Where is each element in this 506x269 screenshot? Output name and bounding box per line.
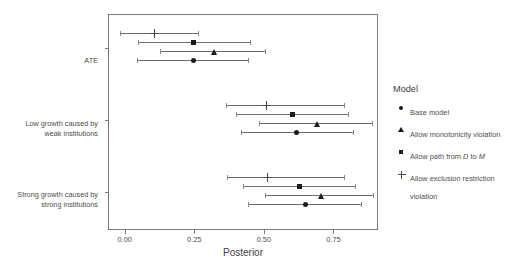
interval-row [109,38,377,47]
legend-item-plus[interactable]: Allow exclusion restriction violation [392,167,504,203]
interval-row [109,128,377,137]
x-tick-mark [264,230,265,234]
interval-row [109,56,377,65]
interval-endcap [243,184,244,189]
legend-item-triangle[interactable]: Allow monotonicity violation [392,123,504,141]
interval-row [109,110,377,119]
interval-endcap [372,121,373,126]
interval-endcap [259,121,260,126]
interval-endcap [355,184,356,189]
credible-interval-bar [226,105,344,106]
data-point-square [297,184,302,189]
interval-row [109,182,377,191]
interval-row [109,29,377,38]
legend-item-label: Allow exclusion restriction violation [410,174,495,201]
interval-row [109,47,377,56]
interval-endcap [344,175,345,180]
data-point-triangle [314,121,320,127]
data-point-triangle [318,193,324,199]
x-tick-label: 0.25 [179,235,209,244]
data-point-circle [303,202,308,207]
data-point-plus [263,173,272,182]
interval-endcap [348,112,349,117]
triangle-marker-icon [397,126,406,135]
plot-area [109,15,377,229]
x-tick-mark [333,230,334,234]
data-point-plus [262,101,271,110]
interval-endcap [138,40,139,45]
interval-endcap [227,175,228,180]
interval-endcap [353,130,354,135]
interval-endcap [250,40,251,45]
interval-endcap [265,49,266,54]
x-tick-mark [194,230,195,234]
interval-endcap [373,193,374,198]
interval-row [109,101,377,110]
data-point-square [290,112,295,117]
legend-title: Model [392,84,504,94]
plus-marker-icon [397,170,406,179]
interval-endcap [137,58,138,63]
interval-endcap [344,103,345,108]
y-axis-labels: ATE Low growth caused by weak institutio… [0,14,104,230]
interval-endcap [226,103,227,108]
interval-endcap [248,202,249,207]
legend-item-label: Allow monotonicity violation [410,130,500,139]
circle-marker-icon [397,104,406,113]
data-point-plus [150,29,159,38]
interval-endcap [361,202,362,207]
interval-endcap [120,31,121,36]
interval-row [109,173,377,182]
interval-endcap [236,112,237,117]
x-axis-title: Posterior [108,247,378,258]
interval-endcap [265,193,266,198]
x-tick-mark [125,230,126,234]
data-point-triangle [211,49,217,55]
data-point-circle [191,58,196,63]
x-tick-label: 0.50 [249,235,279,244]
legend-item-square[interactable]: Allow path from D to M [392,145,504,163]
y-tick-label-strong-growth: Strong growth caused by strong instituti… [17,190,98,209]
data-point-circle [294,130,299,135]
y-tick-label-low-growth: Low growth caused by weak institutions [25,119,98,138]
interval-endcap [241,130,242,135]
x-tick-label: 0.75 [318,235,348,244]
plot-panel [108,14,378,230]
y-tick-label-ate: ATE [84,56,98,66]
credible-interval-bar [227,177,344,178]
interval-endcap [248,58,249,63]
interval-row [109,119,377,128]
interval-endcap [198,31,199,36]
legend-item-label: Base model [410,108,449,117]
square-marker-icon [397,148,406,157]
legend-item-circle[interactable]: Base model [392,101,504,119]
interval-endcap [160,49,161,54]
data-point-square [191,40,196,45]
legend-items: Base modelAllow monotonicity violationAl… [392,101,504,203]
x-tick-label: 0.00 [110,235,140,244]
figure-root: ATE Low growth caused by weak institutio… [0,0,506,269]
interval-row [109,191,377,200]
legend: Model Base modelAllow monotonicity viola… [392,84,504,207]
interval-row [109,200,377,209]
legend-item-label: Allow path from D to M [410,152,485,161]
